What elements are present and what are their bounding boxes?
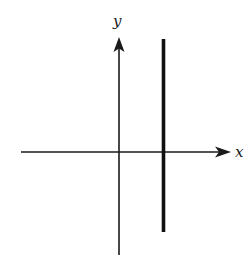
x-axis-label: x: [235, 143, 244, 161]
y-axis: [114, 37, 125, 255]
y-axis-label: y: [112, 12, 122, 30]
x-axis: [21, 147, 231, 158]
coordinate-plane-diagram: y x: [0, 0, 248, 262]
